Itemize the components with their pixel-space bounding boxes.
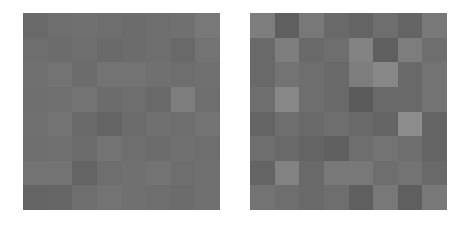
pixel-cell: [171, 161, 196, 186]
pixel-cell: [48, 13, 73, 38]
pixel-cell: [398, 62, 423, 87]
pixel-cell: [23, 136, 48, 161]
pixel-cell: [250, 185, 275, 210]
pixel-cell: [122, 185, 147, 210]
pixel-cell: [324, 185, 349, 210]
pixel-cell: [398, 112, 423, 137]
pixel-cell: [48, 38, 73, 63]
pixel-cell: [171, 87, 196, 112]
pixel-cell: [48, 185, 73, 210]
pixel-cell: [97, 161, 122, 186]
pixel-cell: [349, 112, 374, 137]
pixel-cell: [23, 112, 48, 137]
pixel-cell: [275, 161, 300, 186]
pixel-cell: [299, 136, 324, 161]
pixel-cell: [23, 161, 48, 186]
pixel-cell: [122, 87, 147, 112]
pixel-cell: [349, 136, 374, 161]
pixel-cell: [422, 13, 447, 38]
pixel-cell: [195, 87, 220, 112]
pixel-cell: [23, 87, 48, 112]
pixel-cell: [373, 38, 398, 63]
pixel-cell: [122, 112, 147, 137]
pixel-cell: [72, 38, 97, 63]
pixel-cell: [195, 136, 220, 161]
pixel-cell: [422, 161, 447, 186]
pixel-cell: [422, 87, 447, 112]
pixel-cell: [171, 13, 196, 38]
pixel-cell: [97, 38, 122, 63]
pixel-cell: [72, 62, 97, 87]
pixel-cell: [275, 62, 300, 87]
pixel-cell: [195, 62, 220, 87]
pixel-cell: [97, 87, 122, 112]
pixel-cell: [422, 136, 447, 161]
pixel-cell: [299, 13, 324, 38]
pixel-cell: [373, 136, 398, 161]
pixel-cell: [171, 185, 196, 210]
pixel-cell: [422, 185, 447, 210]
pixel-cell: [122, 38, 147, 63]
pixel-cell: [349, 62, 374, 87]
pixel-cell: [97, 62, 122, 87]
pixel-cell: [324, 136, 349, 161]
pixel-cell: [171, 38, 196, 63]
pixel-cell: [250, 87, 275, 112]
pixel-cell: [299, 87, 324, 112]
pixel-cell: [48, 112, 73, 137]
pixel-cell: [250, 38, 275, 63]
pixel-cell: [349, 38, 374, 63]
pixel-cell: [398, 136, 423, 161]
pixel-cell: [373, 13, 398, 38]
pixel-cell: [122, 62, 147, 87]
pixel-cell: [349, 185, 374, 210]
pixel-cell: [422, 62, 447, 87]
pixel-cell: [373, 62, 398, 87]
pixel-cell: [195, 38, 220, 63]
pixel-cell: [299, 62, 324, 87]
pixel-cell: [349, 13, 374, 38]
pixel-cell: [195, 161, 220, 186]
pixel-cell: [299, 161, 324, 186]
pixel-cell: [324, 62, 349, 87]
pixel-cell: [275, 136, 300, 161]
pixel-cell: [97, 13, 122, 38]
pixel-cell: [324, 13, 349, 38]
pixel-cell: [122, 161, 147, 186]
pixel-cell: [146, 38, 171, 63]
pixel-cell: [23, 185, 48, 210]
pixel-cell: [72, 161, 97, 186]
pixel-cell: [146, 136, 171, 161]
pixel-cell: [122, 13, 147, 38]
pixel-cell: [171, 62, 196, 87]
pixel-grid-right: [250, 13, 447, 210]
pixel-cell: [171, 136, 196, 161]
pixel-cell: [250, 161, 275, 186]
pixel-cell: [250, 112, 275, 137]
pixel-cell: [299, 38, 324, 63]
pixel-cell: [48, 87, 73, 112]
pixel-cell: [48, 62, 73, 87]
pixel-cell: [250, 62, 275, 87]
pixel-cell: [398, 87, 423, 112]
pixel-cell: [275, 87, 300, 112]
pixel-cell: [146, 112, 171, 137]
pixel-cell: [324, 38, 349, 63]
pixel-cell: [146, 161, 171, 186]
pixel-cell: [324, 161, 349, 186]
pixel-cell: [146, 62, 171, 87]
pixel-cell: [299, 112, 324, 137]
pixel-cell: [146, 13, 171, 38]
pixel-cell: [23, 13, 48, 38]
pixel-cell: [324, 112, 349, 137]
pixel-cell: [122, 136, 147, 161]
pixel-cell: [250, 136, 275, 161]
pixel-cell: [72, 136, 97, 161]
pixel-cell: [23, 38, 48, 63]
pixel-cell: [72, 87, 97, 112]
pixel-cell: [373, 185, 398, 210]
pixel-cell: [349, 161, 374, 186]
pixel-cell: [349, 87, 374, 112]
pixel-cell: [398, 161, 423, 186]
pixel-cell: [275, 185, 300, 210]
